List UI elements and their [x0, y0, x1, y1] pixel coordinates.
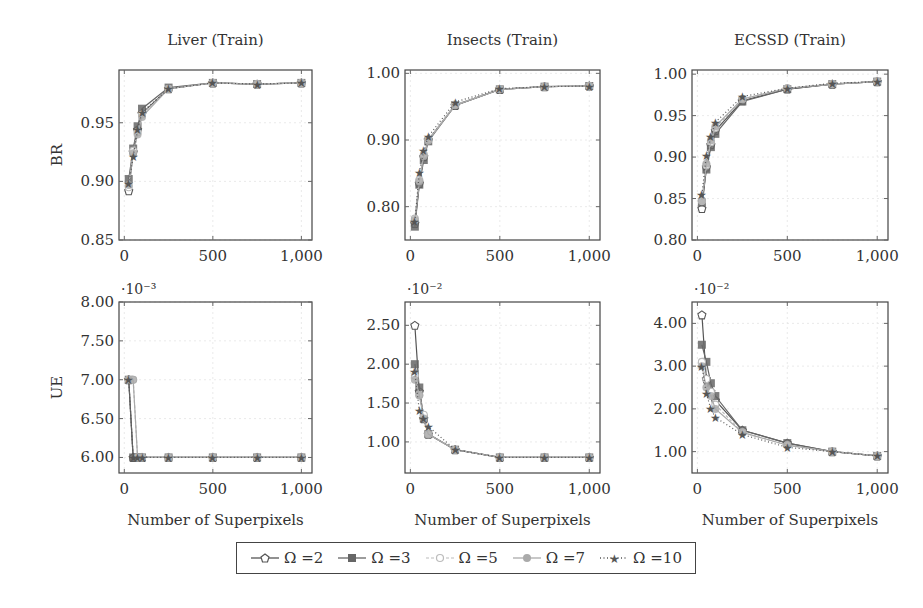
legend-label: Ω =2	[284, 549, 323, 567]
chart-title: Insects (Train)	[447, 31, 558, 49]
chart-panel-5: 05001,0001.001.502.002.50Number of Super…	[367, 281, 611, 529]
series-line	[702, 82, 877, 201]
y-tick-label: 0.95	[654, 107, 687, 125]
y-tick-label: 2.00	[654, 400, 687, 418]
axes-frame	[119, 70, 312, 240]
series-line	[702, 82, 877, 201]
pentagon-marker-icon	[250, 552, 280, 564]
y-tick-label: 0.85	[81, 231, 114, 249]
legend-item-omega-10: ★ Ω =10	[599, 549, 682, 567]
svg-text:★: ★	[584, 80, 595, 94]
x-tick-label: 0	[120, 247, 130, 265]
y-tick-label: 0.90	[654, 148, 687, 166]
y-tick-label: 7.50	[81, 332, 114, 350]
svg-text:★: ★	[710, 411, 721, 425]
svg-text:★: ★	[409, 365, 420, 379]
series-line	[415, 86, 589, 219]
svg-text:★: ★	[123, 373, 134, 387]
y-axis-label: UE	[48, 376, 66, 400]
chart-panel-3: 05001,0000.800.850.900.951.00ECSSD (Trai…	[654, 31, 899, 265]
chart-panel-1: 05001,0000.850.900.95Liver (Train)BR★★★★…	[48, 31, 323, 265]
star-marker-icon: ★	[599, 552, 629, 564]
svg-text:★: ★	[827, 445, 838, 459]
x-tick-label: 500	[485, 480, 514, 498]
legend-item-omega-7: Ω =7	[512, 549, 585, 567]
x-tick-label: 500	[199, 247, 228, 265]
svg-text:★: ★	[701, 149, 712, 163]
svg-text:★: ★	[539, 80, 550, 94]
svg-text:★: ★	[423, 130, 434, 144]
series-line	[415, 86, 589, 227]
series-line	[415, 372, 589, 458]
x-tick-label: 0	[693, 247, 703, 265]
series-line	[702, 82, 877, 195]
y-tick-label: 0.80	[367, 198, 400, 216]
circle-open-marker-icon	[425, 552, 455, 564]
svg-text:★: ★	[207, 76, 218, 90]
scale-exponent-label: ·10⁻²	[694, 281, 729, 297]
scale-exponent-label: ·10⁻²	[407, 281, 442, 297]
y-tick-label: 1.00	[654, 443, 687, 461]
x-tick-label: 0	[406, 480, 416, 498]
x-axis-label: Number of Superpixels	[127, 511, 304, 529]
svg-text:★: ★	[128, 150, 139, 164]
legend-item-omega-2: Ω =2	[250, 549, 323, 567]
legend: Ω =2 Ω =3 Ω =5 Ω =7 ★ Ω =10	[236, 542, 696, 574]
y-tick-label: 0.80	[654, 231, 687, 249]
svg-text:★: ★	[696, 188, 707, 202]
svg-text:★: ★	[423, 420, 434, 434]
x-tick-label: 500	[773, 247, 802, 265]
x-tick-label: 1,000	[280, 247, 323, 265]
x-tick-label: 1,000	[856, 480, 899, 498]
y-tick-label: 6.00	[81, 448, 114, 466]
square-marker-icon	[337, 552, 367, 564]
svg-text:★: ★	[782, 441, 793, 455]
x-tick-label: 500	[773, 480, 802, 498]
svg-text:★: ★	[252, 78, 263, 92]
svg-text:★: ★	[163, 451, 174, 465]
svg-text:★: ★	[450, 96, 461, 110]
y-tick-label: 1.00	[367, 433, 400, 451]
series-line	[702, 82, 877, 203]
legend-item-omega-3: Ω =3	[337, 549, 410, 567]
series-line	[415, 86, 589, 221]
y-axis-label: BR	[48, 143, 66, 166]
svg-text:★: ★	[872, 449, 883, 463]
y-tick-label: 1.50	[367, 394, 400, 412]
x-tick-label: 1,000	[568, 247, 611, 265]
svg-text:★: ★	[696, 360, 707, 374]
legend-label: Ω =3	[371, 549, 410, 567]
chart-title: ECSSD (Train)	[734, 31, 846, 49]
chart-panel-6: 05001,0001.002.003.004.00Number of Super…	[654, 281, 899, 529]
legend-label: Ω =5	[459, 549, 498, 567]
x-axis-label: Number of Superpixels	[702, 511, 879, 529]
svg-text:★: ★	[163, 82, 174, 96]
svg-text:★: ★	[494, 451, 505, 465]
svg-text:★: ★	[609, 552, 620, 564]
svg-text:★: ★	[132, 123, 143, 137]
svg-text:★: ★	[409, 215, 420, 229]
y-tick-label: 0.85	[654, 190, 687, 208]
x-tick-label: 0	[406, 247, 416, 265]
svg-text:★: ★	[584, 451, 595, 465]
svg-text:★: ★	[207, 451, 218, 465]
legend-label: Ω =7	[546, 549, 585, 567]
series-line	[129, 83, 302, 179]
x-axis-label: Number of Superpixels	[414, 511, 591, 529]
y-tick-label: 1.00	[654, 65, 687, 83]
y-tick-label: 0.90	[367, 131, 400, 149]
svg-text:★: ★	[827, 77, 838, 91]
svg-text:★: ★	[782, 82, 793, 96]
scale-exponent-label: ·10⁻³	[121, 281, 156, 297]
svg-text:★: ★	[296, 76, 307, 90]
series-line	[415, 86, 589, 220]
svg-text:★: ★	[494, 82, 505, 96]
svg-text:★: ★	[418, 144, 429, 158]
y-tick-label: 0.90	[81, 172, 114, 190]
x-tick-label: 0	[693, 480, 703, 498]
x-tick-label: 1,000	[280, 480, 323, 498]
y-tick-label: 3.00	[654, 357, 687, 375]
svg-text:★: ★	[450, 443, 461, 457]
axes-frame	[405, 302, 600, 473]
chart-panel-4: 05001,0006.006.507.007.508.00Number of S…	[48, 281, 323, 529]
